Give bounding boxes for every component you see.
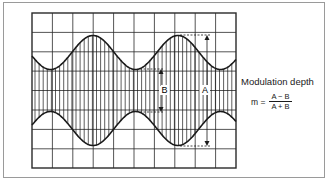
formula-denominator: A + B [269,102,291,111]
label-a: A [201,85,209,95]
formula-lhs: m = [251,97,265,107]
modulation-formula: m = A − B A + B [251,92,292,111]
formula-numerator: A − B [269,92,291,102]
label-b: B [161,85,169,95]
formula-fraction: A − B A + B [269,92,291,111]
modulation-depth-title: Modulation depth [241,76,314,87]
